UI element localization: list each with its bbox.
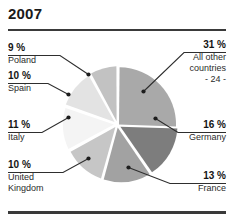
leader-dot-poland	[86, 72, 90, 76]
pie-slices	[63, 66, 177, 182]
callout-germany-label: Germany	[189, 132, 226, 143]
callout-france: 13 % France	[198, 170, 226, 194]
leader-dot-spain	[66, 92, 70, 96]
callout-spain-value: 10 %	[8, 70, 31, 82]
callout-italy: 11 % Italy	[8, 119, 30, 143]
callout-poland-value: 9 %	[8, 42, 36, 54]
callout-united-kingdom-value: 10 %	[8, 159, 44, 171]
callout-france-label: France	[198, 183, 226, 194]
callout-germany-value: 16 %	[189, 119, 226, 131]
leader-dot-italy	[66, 115, 70, 119]
callout-france-value: 13 %	[198, 170, 226, 182]
callout-poland: 9 % Poland	[8, 42, 36, 66]
leader-dot-united-kingdom	[86, 156, 90, 160]
leader-dot-france	[126, 165, 130, 169]
callout-all-other-countries: 31 % All other countries - 24 -	[189, 39, 226, 85]
callout-poland-label: Poland	[8, 55, 36, 66]
callout-all-other-countries-value: 31 %	[189, 39, 226, 51]
pie-slice-all-other-countries[interactable]	[119, 67, 176, 126]
callout-italy-value: 11 %	[8, 119, 30, 131]
callout-all-other-countries-label-line1: All other	[189, 52, 226, 63]
callout-united-kingdom-label-line1: United	[8, 172, 44, 183]
callout-germany: 16 % Germany	[189, 119, 226, 143]
callout-spain: 10 % Spain	[8, 70, 31, 94]
callout-all-other-countries-label-line3: - 24 -	[189, 74, 226, 85]
callout-united-kingdom: 10 % United Kingdom	[8, 159, 44, 194]
callout-spain-label: Spain	[8, 83, 31, 94]
callout-all-other-countries-label-line2: countries	[189, 63, 226, 74]
leader-dot-all-other-countries	[141, 89, 145, 93]
callout-united-kingdom-label-line2: Kingdom	[8, 183, 44, 194]
callout-italy-label: Italy	[8, 132, 30, 143]
chart-figure: 2007	[0, 0, 234, 221]
leader-dot-germany	[153, 116, 157, 120]
